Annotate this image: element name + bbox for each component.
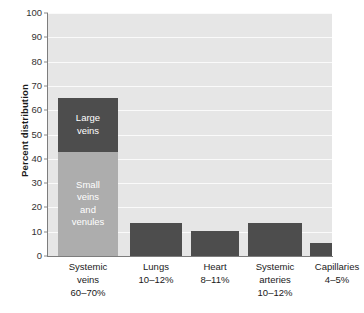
y-tick-label: 30 [0,178,42,188]
y-tick-label: 80 [0,57,42,67]
y-tick-label: 70 [0,81,42,91]
gridline [48,13,332,14]
x-axis-category-labels: Systemicveins60–70%Lungs10–12%Heart8–11%… [48,260,332,313]
x-axis-label-capillaries: Capillaries4–5% [298,260,364,286]
bar-systemic-veins: SmallveinsandvenulesLargeveins [58,98,118,256]
bar-heart [191,231,239,257]
bar-lungs [130,223,182,256]
bar-segment-large-veins: Largeveins [58,98,118,151]
y-tick-label: 60 [0,105,42,115]
bar-segment-label: Smallveinsandvenules [70,179,107,229]
gridline [48,37,332,38]
y-tick-label: 10 [0,227,42,237]
bar-segment-small-veins-venules: Smallveinsandvenules [58,152,118,256]
y-tick-label: 100 [0,8,42,18]
y-tick-label: 20 [0,203,42,213]
gridline [48,86,332,87]
gridline [48,62,332,63]
y-tick-label: 50 [0,130,42,140]
x-axis-line [47,256,333,257]
bar-capillaries [310,243,332,256]
y-tick-label: 90 [0,33,42,43]
y-axis-tick-labels: 1009080706050403020100 [0,13,42,256]
y-tick-label: 40 [0,154,42,164]
y-tick-label: 0 [0,251,42,261]
bar-segment-label: Largeveins [74,112,102,137]
x-axis-label-systemic-veins: Systemicveins60–70% [49,260,127,299]
bar-systemic-arteries [248,223,302,256]
plot-area: SmallveinsandvenulesLargeveins [48,13,332,256]
